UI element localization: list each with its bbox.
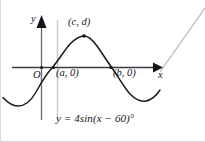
point-a-label: (a, 0) — [56, 68, 79, 79]
point-marker-a — [52, 66, 55, 69]
equation-caption: y = 4sin(x − 60)° — [56, 113, 134, 124]
point-marker-cd — [82, 34, 86, 38]
y-axis-label: y — [31, 14, 36, 25]
origin-label: O — [33, 70, 41, 81]
sine-graph-figure: y x O (a, 0) (b, 0) (c, d) y = 4sin(x − … — [0, 0, 205, 142]
y-axis-arrowhead — [37, 15, 47, 28]
scan-artifact-diagonal-streak — [160, 8, 205, 72]
point-cd-label: (c, d) — [68, 17, 90, 28]
point-b-label: (b, 0) — [113, 68, 136, 79]
x-axis-label: x — [158, 70, 163, 81]
sine-curve — [3, 36, 160, 106]
